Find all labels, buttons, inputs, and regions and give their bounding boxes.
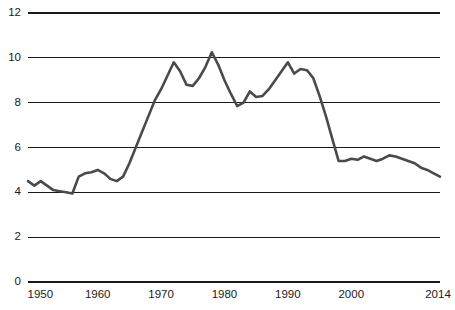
y-tick-label-4: 4 <box>15 185 22 197</box>
y-tick-label-2: 2 <box>15 230 21 242</box>
x-tick-label-1980: 1980 <box>212 288 238 300</box>
x-tick-label-1990: 1990 <box>275 288 301 300</box>
chart-container: 024681012 1950196019701980199020002014 <box>0 0 455 310</box>
x-tick-label-2000: 2000 <box>338 288 364 300</box>
y-axis-tick-labels: 024681012 <box>8 6 21 287</box>
x-tick-label-2014: 2014 <box>425 288 451 300</box>
y-tick-label-0: 0 <box>15 275 21 287</box>
data-series-line <box>28 52 440 193</box>
line-chart: 024681012 1950196019701980199020002014 <box>0 0 455 310</box>
gridlines <box>28 13 440 282</box>
y-tick-label-10: 10 <box>8 51 21 63</box>
y-tick-label-8: 8 <box>15 96 21 108</box>
x-tick-label-1970: 1970 <box>148 288 174 300</box>
x-tick-label-1960: 1960 <box>85 288 111 300</box>
x-tick-label-1950: 1950 <box>28 288 54 300</box>
y-tick-label-12: 12 <box>8 6 21 18</box>
x-axis-tick-labels: 1950196019701980199020002014 <box>28 288 452 300</box>
y-tick-label-6: 6 <box>15 141 21 153</box>
